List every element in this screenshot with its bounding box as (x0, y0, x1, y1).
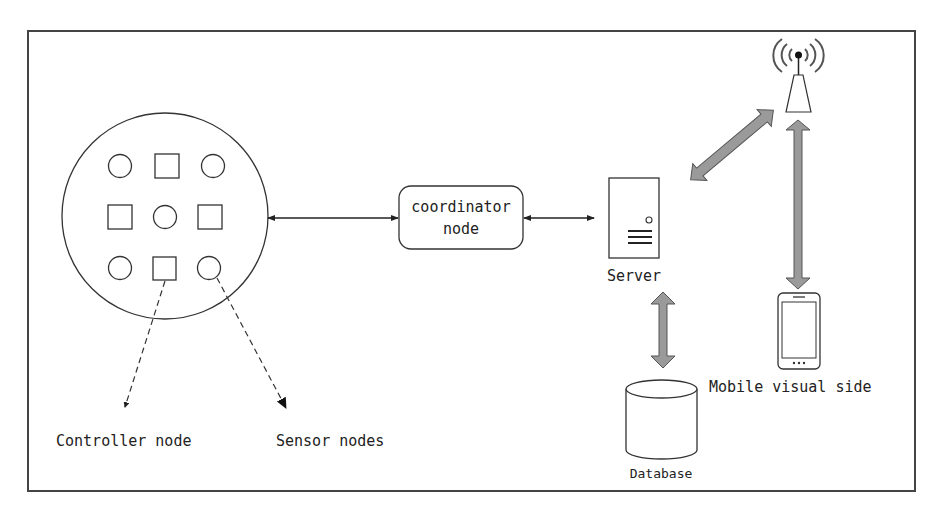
server-label: Server (607, 267, 661, 285)
tower-mobile-arrow (786, 120, 810, 289)
sensor-node-icon (154, 206, 177, 229)
controller-node-icon (108, 205, 132, 229)
server-icon (609, 178, 659, 258)
database-label: Database (630, 466, 693, 481)
sensor-node-icon (109, 257, 132, 280)
coordinator-label-line2: node (443, 220, 479, 238)
controller-node-icon (198, 205, 222, 229)
controller-node-label: Controller node (56, 432, 191, 450)
sensor-node-icon (198, 257, 221, 280)
coordinator-node: coordinator node (399, 186, 523, 249)
controller-pointer-line (125, 281, 165, 407)
coordinator-label-line1: coordinator (411, 198, 510, 216)
diagram-canvas: Controller node Sensor nodes coordinator… (0, 0, 943, 519)
mobile-visual-side-label: Mobile visual side (709, 378, 872, 396)
controller-node-icon (155, 154, 179, 178)
controller-node-icon (153, 257, 176, 280)
database-icon (626, 380, 697, 459)
sensor-node-icon (109, 155, 132, 178)
sensor-node-icon (202, 155, 225, 178)
server-database-arrow (651, 292, 675, 368)
server-tower-arrow (684, 102, 781, 188)
sensor-cluster (62, 113, 268, 319)
mobile-phone-icon (778, 293, 820, 369)
diagram-frame (28, 31, 915, 491)
sensor-nodes-label: Sensor nodes (276, 432, 384, 450)
base-station-icon (773, 39, 823, 112)
sensor-pointer-line (217, 278, 286, 408)
